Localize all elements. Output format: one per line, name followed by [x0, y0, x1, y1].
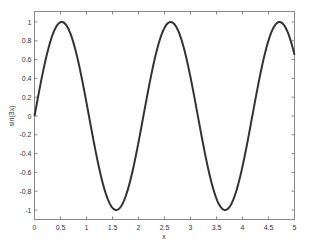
- y-tick-label: -0.2: [19, 131, 31, 138]
- x-tick-label: 3: [189, 224, 193, 231]
- y-tick-label: 0.2: [22, 94, 32, 101]
- x-tick-label: 1.5: [108, 224, 118, 231]
- x-tick-label: 0: [33, 224, 37, 231]
- y-tick-label: -0.6: [19, 169, 31, 176]
- y-tick-label: 0.6: [22, 56, 32, 63]
- x-tick-label: 3.5: [212, 224, 222, 231]
- x-tick-label: 5: [293, 224, 297, 231]
- x-tick-label: 0.5: [56, 224, 66, 231]
- y-tick-label: 0.8: [22, 37, 32, 44]
- y-tick-label: -0.4: [19, 150, 31, 157]
- y-tick-label: -1: [25, 207, 31, 214]
- y-axis-label: sin(3x): [8, 105, 16, 126]
- x-tick-label: 2.5: [160, 224, 170, 231]
- x-tick-label: 4.5: [264, 224, 274, 231]
- x-tick-label: 1: [85, 224, 89, 231]
- y-tick-label: 0: [28, 113, 32, 120]
- y-tick-label: -0.8: [19, 188, 31, 195]
- x-tick-label: 4: [241, 224, 245, 231]
- y-tick-label: 0.4: [22, 75, 32, 82]
- chart: 00.511.522.533.544.55 10.80.60.40.20-0.2…: [0, 0, 310, 245]
- x-tick-label: 2: [137, 224, 141, 231]
- y-tick-label: 1: [28, 19, 32, 26]
- x-axis-label: x: [162, 233, 166, 240]
